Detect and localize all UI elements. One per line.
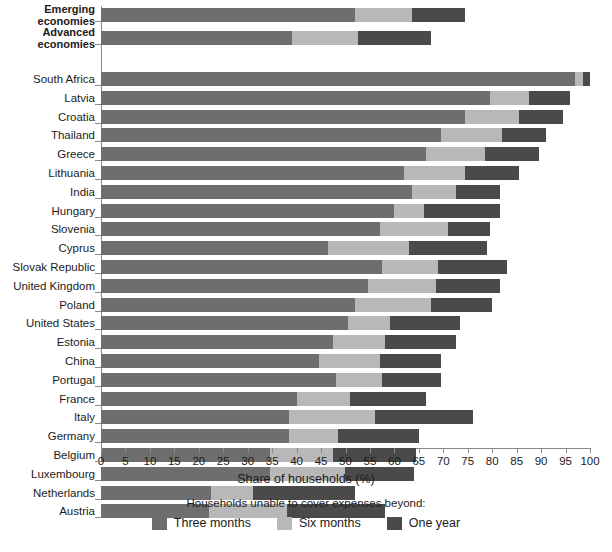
x-axis-tick-label: 5	[122, 455, 128, 467]
bar-segment-one	[436, 279, 500, 293]
bar-segment-one	[519, 110, 563, 124]
legend-swatch-icon	[152, 517, 167, 530]
stacked-bar	[101, 373, 441, 387]
y-axis-label-greece: Greece	[57, 148, 95, 160]
bar-segment-three	[101, 410, 289, 424]
stacked-bar	[101, 241, 487, 255]
x-axis-tick	[419, 448, 420, 453]
bar-row	[101, 335, 590, 349]
legend-label: One year	[409, 516, 460, 530]
x-axis-tick-label: 95	[559, 455, 572, 467]
bar-segment-three	[101, 316, 348, 330]
x-axis-tick	[566, 448, 567, 453]
bar-segment-one	[380, 354, 441, 368]
x-axis-tick-label: 60	[388, 455, 401, 467]
y-axis-tick	[95, 179, 101, 180]
bar-row	[101, 8, 590, 22]
x-axis-tick	[223, 448, 224, 453]
y-axis-tick	[95, 254, 101, 255]
bar-segment-six	[319, 354, 380, 368]
stacked-bar	[101, 31, 431, 45]
x-axis-title: Share of households (%)	[0, 472, 612, 486]
y-axis-label-slovak-republic: Slovak Republic	[13, 261, 95, 273]
legend-item[interactable]: Six months	[277, 516, 361, 530]
y-axis-tick	[95, 405, 101, 406]
y-axis-tick	[95, 141, 101, 142]
bar-segment-three	[101, 110, 465, 124]
y-axis-tick	[95, 217, 101, 218]
y-axis-label-thailand: Thailand	[51, 129, 95, 141]
x-axis-tick-label: 55	[364, 455, 377, 467]
y-axis-tick	[95, 44, 101, 45]
bar-segment-six	[292, 31, 358, 45]
bar-segment-six	[289, 429, 338, 443]
bar-row	[101, 185, 590, 199]
y-axis-tick	[95, 104, 101, 105]
stacked-bar	[101, 392, 426, 406]
bar-segment-one	[358, 31, 431, 45]
x-axis-tick	[150, 448, 151, 453]
y-axis-tick	[95, 273, 101, 274]
bar-row	[101, 110, 590, 124]
legend-item[interactable]: One year	[387, 516, 460, 530]
bar-segment-six	[394, 204, 423, 218]
legend-swatch-icon	[277, 517, 292, 530]
y-axis-label-hungary: Hungary	[52, 205, 95, 217]
stacked-bar	[101, 91, 570, 105]
x-axis-tick	[248, 448, 249, 453]
x-axis-tick	[517, 448, 518, 453]
legend-item[interactable]: Three months	[152, 516, 251, 530]
y-axis-tick	[95, 292, 101, 293]
legend-label: Six months	[299, 516, 361, 530]
bar-row	[101, 373, 590, 387]
bar-segment-one	[424, 204, 500, 218]
bar-segment-one	[338, 429, 419, 443]
bar-segment-six	[575, 72, 582, 86]
bar-segment-one	[529, 91, 571, 105]
x-axis-tick	[443, 448, 444, 453]
bar-segment-three	[101, 166, 404, 180]
plot-area	[101, 6, 590, 448]
x-axis-tick-label: 100	[580, 455, 599, 467]
bar-row	[101, 204, 590, 218]
stacked-bar	[101, 316, 460, 330]
y-axis-tick	[95, 499, 101, 500]
bar-segment-one	[502, 128, 546, 142]
x-axis-tick-label: 20	[192, 455, 205, 467]
y-axis-tick	[95, 386, 101, 387]
y-axis-tick	[95, 517, 101, 518]
bar-segment-one	[385, 335, 456, 349]
chart-legend: Households unable to cover expenses beyo…	[0, 497, 612, 530]
x-axis-tick	[101, 448, 102, 453]
bar-segment-one	[485, 147, 539, 161]
bar-segment-three	[101, 8, 355, 22]
y-axis-label-estonia: Estonia	[57, 336, 95, 348]
x-axis-tick	[492, 448, 493, 453]
bar-segment-six	[426, 147, 485, 161]
y-axis-tick	[95, 123, 101, 124]
y-axis-tick	[95, 198, 101, 199]
bar-segment-six	[297, 392, 351, 406]
bar-segment-six	[336, 373, 382, 387]
bar-segment-six	[441, 128, 502, 142]
bar-segment-three	[101, 185, 412, 199]
bar-row	[101, 222, 590, 236]
y-axis-label-slovenia: Slovenia	[51, 223, 95, 235]
x-axis-tick-label: 25	[217, 455, 230, 467]
bar-segment-one	[431, 298, 492, 312]
bar-row	[101, 72, 590, 86]
y-axis-tick	[95, 442, 101, 443]
x-axis-tick-label: 40	[290, 455, 303, 467]
x-axis-tick-label: 70	[437, 455, 450, 467]
x-axis-tick	[321, 448, 322, 453]
x-axis-tick	[541, 448, 542, 453]
bar-segment-three	[101, 279, 368, 293]
bar-segment-three	[101, 392, 297, 406]
y-axis-label-poland: Poland	[59, 299, 95, 311]
bar-segment-six	[380, 222, 448, 236]
bar-row	[101, 279, 590, 293]
bar-segment-six	[404, 166, 465, 180]
x-axis-tick-label: 50	[339, 455, 352, 467]
y-axis-tick	[95, 85, 101, 86]
legend-items: Three monthsSix monthsOne year	[0, 516, 612, 530]
